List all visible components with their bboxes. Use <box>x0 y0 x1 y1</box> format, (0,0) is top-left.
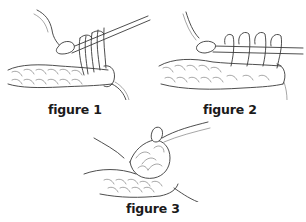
figure-2-illustration <box>153 0 306 100</box>
figure-1-illustration <box>0 0 153 100</box>
crochet-cluster-stitch-illustration <box>80 118 233 202</box>
figure-2-label: figure 2 <box>203 102 257 117</box>
figure-3-illustration <box>80 118 233 202</box>
crochet-hook-loops-illustration <box>0 0 153 100</box>
figure-3-label: figure 3 <box>126 201 180 216</box>
figure-1-label: figure 1 <box>48 102 102 117</box>
crochet-hook-pull-through-illustration <box>153 0 306 100</box>
